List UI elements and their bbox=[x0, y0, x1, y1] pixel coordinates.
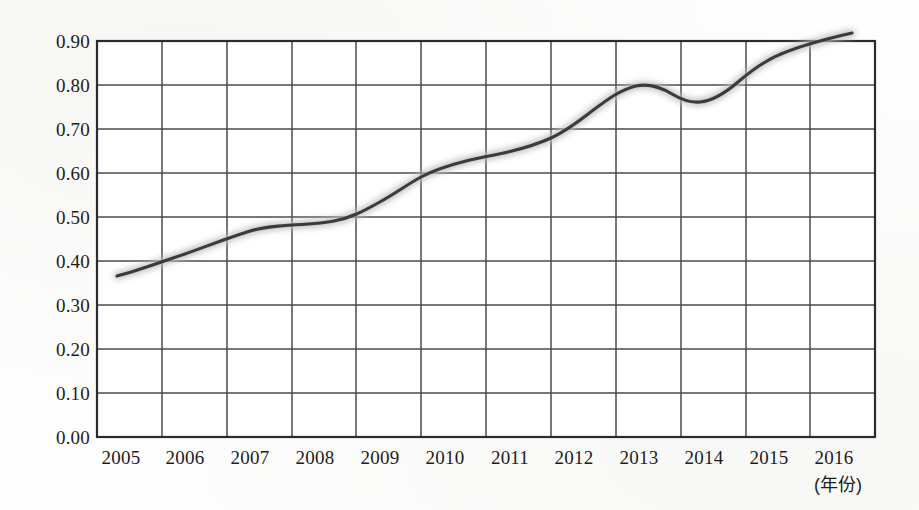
ytick-label-4: 0.50 bbox=[32, 207, 90, 229]
ytick-label-8: 0.10 bbox=[32, 383, 90, 405]
ytick-label-2: 0.70 bbox=[32, 119, 90, 141]
xtick-label-2005: 2005 bbox=[88, 447, 154, 469]
xtick-label-2007: 2007 bbox=[217, 447, 283, 469]
ytick-label-6: 0.30 bbox=[32, 295, 90, 317]
xtick-label-2012: 2012 bbox=[541, 447, 607, 469]
ytick-label-0: 0.90 bbox=[32, 31, 90, 53]
xtick-label-2006: 2006 bbox=[152, 447, 218, 469]
xtick-label-2008: 2008 bbox=[282, 447, 348, 469]
xtick-label-2015: 2015 bbox=[736, 447, 802, 469]
xtick-label-2009: 2009 bbox=[347, 447, 413, 469]
xtick-label-2010: 2010 bbox=[412, 447, 478, 469]
ytick-label-3: 0.60 bbox=[32, 163, 90, 185]
ytick-label-7: 0.20 bbox=[32, 339, 90, 361]
chart-figure: 0.90 0.80 0.70 0.60 0.50 0.40 0.30 0.20 … bbox=[0, 0, 919, 510]
x-axis-unit-label: (年份) bbox=[801, 470, 875, 496]
ytick-label-9: 0.00 bbox=[32, 427, 90, 449]
ytick-label-1: 0.80 bbox=[32, 75, 90, 97]
ytick-label-5: 0.40 bbox=[32, 251, 90, 273]
xtick-label-2011: 2011 bbox=[477, 447, 543, 469]
xtick-label-2013: 2013 bbox=[606, 447, 672, 469]
xtick-label-2016: 2016 bbox=[801, 447, 867, 469]
xtick-label-2014: 2014 bbox=[671, 447, 737, 469]
line-chart-plot bbox=[0, 0, 919, 510]
